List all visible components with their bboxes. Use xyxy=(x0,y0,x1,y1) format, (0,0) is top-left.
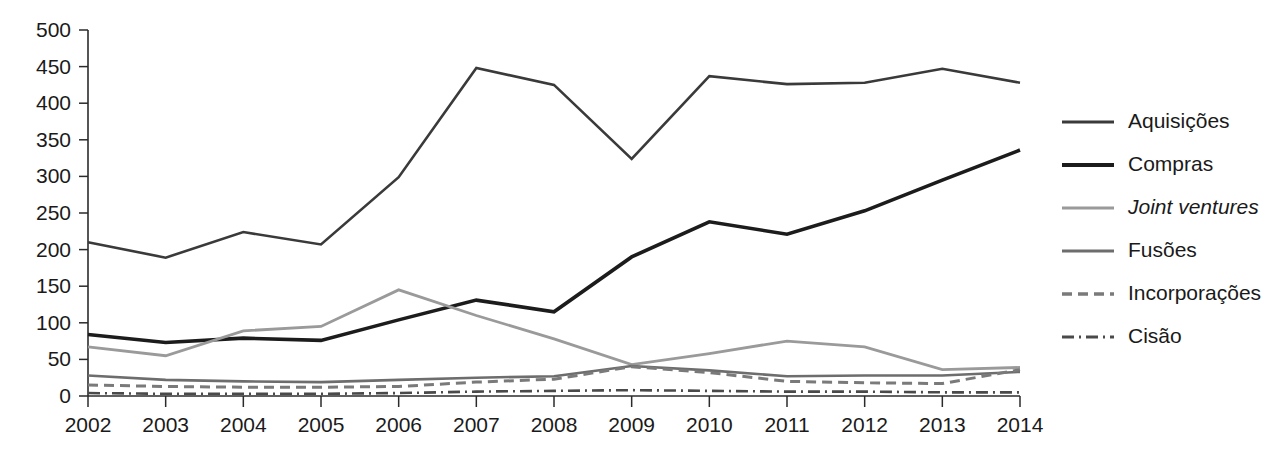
y-tick-label: 150 xyxy=(36,274,71,297)
y-tick-label: 300 xyxy=(36,164,71,187)
x-tick-label: 2004 xyxy=(220,413,267,436)
x-tick-label: 2012 xyxy=(841,413,888,436)
x-tick-label: 2003 xyxy=(142,413,189,436)
legend-item-aquisi-es: Aquisições xyxy=(1062,109,1230,132)
x-tick-group: 2002200320042005200620072008200920102011… xyxy=(65,396,1044,436)
legend-label-joint-ventures: Joint ventures xyxy=(1127,195,1259,218)
series-group xyxy=(88,68,1020,394)
y-tick-label: 250 xyxy=(36,201,71,224)
y-tick-label: 350 xyxy=(36,128,71,151)
x-axis: 2002200320042005200620072008200920102011… xyxy=(65,396,1044,436)
series-line-cis-o xyxy=(88,390,1020,394)
series-line-aquisi-es xyxy=(88,68,1020,258)
y-tick-label: 400 xyxy=(36,91,71,114)
chart-canvas: 050100150200250300350400450500 200220032… xyxy=(0,0,1269,454)
y-axis: 050100150200250300350400450500 xyxy=(36,18,88,407)
y-tick-label: 50 xyxy=(48,347,71,370)
legend-label-incorpora-es: Incorporações xyxy=(1128,281,1261,304)
legend-item-fus-es: Fusões xyxy=(1062,238,1197,261)
y-tick-group: 050100150200250300350400450500 xyxy=(36,18,88,407)
legend-item-compras: Compras xyxy=(1062,152,1213,175)
legend-label-compras: Compras xyxy=(1128,152,1213,175)
legend-item-joint-ventures: Joint ventures xyxy=(1062,195,1259,218)
x-tick-label: 2008 xyxy=(531,413,578,436)
legend-label-fus-es: Fusões xyxy=(1128,238,1197,261)
x-tick-label: 2011 xyxy=(764,413,809,436)
legend-label-aquisi-es: Aquisições xyxy=(1128,109,1230,132)
y-tick-label: 200 xyxy=(36,238,71,261)
series-line-compras xyxy=(88,150,1020,343)
x-tick-label: 2014 xyxy=(997,413,1044,436)
y-tick-label: 100 xyxy=(36,311,71,334)
x-tick-label: 2005 xyxy=(298,413,345,436)
y-tick-label: 0 xyxy=(59,384,71,407)
legend-item-cis-o: Cisão xyxy=(1062,324,1182,347)
x-tick-label: 2007 xyxy=(453,413,500,436)
x-tick-label: 2002 xyxy=(65,413,112,436)
y-tick-label: 450 xyxy=(36,55,71,78)
x-tick-label: 2010 xyxy=(686,413,733,436)
legend-item-incorpora-es: Incorporações xyxy=(1062,281,1261,304)
x-tick-label: 2013 xyxy=(919,413,966,436)
line-chart: 050100150200250300350400450500 200220032… xyxy=(0,0,1269,454)
y-tick-label: 500 xyxy=(36,18,71,41)
x-tick-label: 2006 xyxy=(375,413,422,436)
legend-label-cis-o: Cisão xyxy=(1128,324,1182,347)
chart-legend: AquisiçõesComprasJoint venturesFusõesInc… xyxy=(1062,109,1261,347)
x-tick-label: 2009 xyxy=(608,413,655,436)
series-line-joint-ventures xyxy=(88,290,1020,370)
